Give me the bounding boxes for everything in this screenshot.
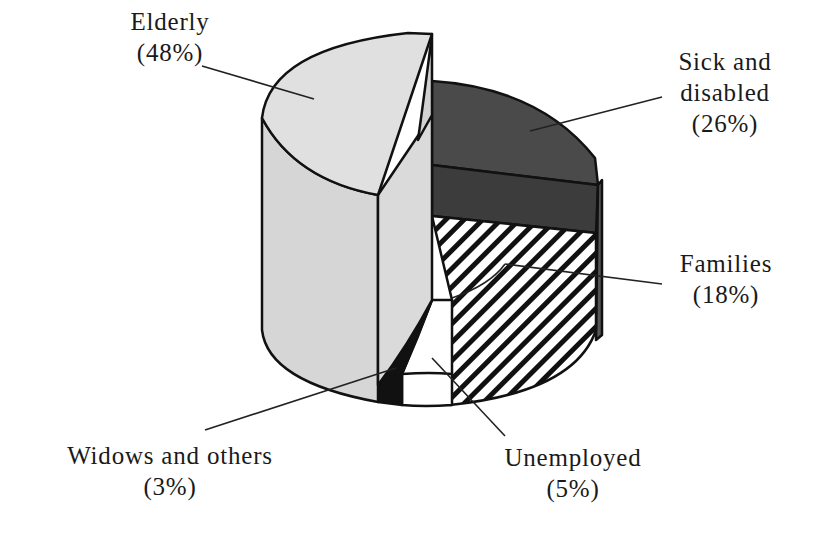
label-sick: Sick and disabled (26%) (660, 46, 790, 139)
label-families: Families (18%) (662, 248, 790, 310)
label-elderly-name: Elderly (120, 6, 220, 37)
label-unemployed: Unemployed (5%) (478, 442, 668, 504)
label-sick-name-line1: Sick and (660, 46, 790, 77)
slice-families (432, 216, 596, 405)
label-widows-pct: (3%) (30, 471, 310, 502)
label-families-pct: (18%) (662, 279, 790, 310)
label-elderly: Elderly (48%) (120, 6, 220, 68)
label-widows-name: Widows and others (30, 440, 310, 471)
leader-sick (530, 97, 662, 131)
slice-unemployed-top-edge (402, 373, 452, 374)
label-unemployed-name: Unemployed (478, 442, 668, 473)
label-sick-pct: (26%) (660, 108, 790, 139)
label-unemployed-pct: (5%) (478, 473, 668, 504)
label-elderly-pct: (48%) (120, 37, 220, 68)
label-sick-name-line2: disabled (660, 77, 790, 108)
label-families-name: Families (662, 248, 790, 279)
label-widows: Widows and others (3%) (30, 440, 310, 502)
